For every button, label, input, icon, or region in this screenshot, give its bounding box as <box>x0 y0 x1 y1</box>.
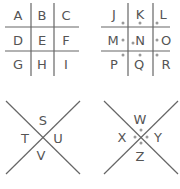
letter: H <box>37 57 47 72</box>
dot-icon <box>139 22 142 25</box>
letter: N <box>135 33 145 48</box>
pigpen-diagram: A B C D E F G H I J K L M N O P Q R <box>0 0 180 189</box>
x-1: S T U V <box>6 101 80 174</box>
letter: L <box>159 7 167 22</box>
dot-icon <box>122 22 125 25</box>
letter: S <box>39 113 47 128</box>
dot-icon <box>156 54 159 57</box>
dot-icon <box>140 129 143 132</box>
letter: C <box>61 8 70 23</box>
letter: I <box>64 57 68 72</box>
dot-icon <box>134 136 137 139</box>
letter: J <box>111 7 116 22</box>
grid-2: J K L M N O P Q R <box>101 3 171 76</box>
letter: P <box>110 57 118 72</box>
letter: K <box>136 7 145 22</box>
letter: W <box>134 112 147 127</box>
letter: G <box>13 57 23 72</box>
dot-icon <box>156 22 159 25</box>
letter: U <box>53 131 63 146</box>
letter: Y <box>153 130 162 145</box>
dot-icon <box>139 54 142 57</box>
letter: E <box>38 33 46 48</box>
letter: M <box>107 33 118 48</box>
letter: Q <box>134 57 144 72</box>
dot-icon <box>156 39 159 42</box>
letter: B <box>38 8 47 23</box>
letter: X <box>118 130 127 145</box>
letter: A <box>14 8 23 23</box>
letter: D <box>13 33 23 48</box>
letter: V <box>37 148 46 163</box>
dot-icon <box>146 136 149 139</box>
letter: R <box>161 57 170 72</box>
dot-icon <box>122 54 125 57</box>
dot-icon <box>140 142 143 145</box>
letter: F <box>62 33 69 48</box>
letter: T <box>20 131 29 146</box>
dot-icon <box>122 39 125 42</box>
grid-1: A B C D E F G H I <box>5 3 79 76</box>
letter: O <box>161 33 171 48</box>
x-2: W X Y Z <box>104 101 178 174</box>
letter: Z <box>136 149 145 164</box>
dot-icon <box>132 42 135 45</box>
